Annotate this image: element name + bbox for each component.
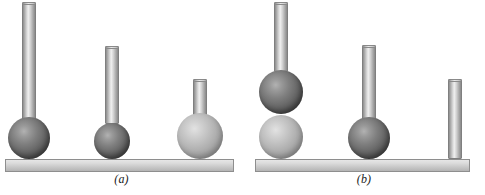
- rod-cap-icon: [448, 79, 462, 82]
- rod-cap-icon: [193, 79, 207, 82]
- assembly-b3: [243, 0, 485, 195]
- panel-b-label: (b): [243, 172, 485, 187]
- rod-a3: [193, 79, 207, 117]
- sphere-a3-light: [177, 113, 223, 159]
- panel-b: (b): [243, 0, 485, 195]
- rod-b3: [448, 79, 462, 159]
- assembly-a3: [0, 0, 243, 195]
- panel-a-label: (a): [0, 172, 243, 187]
- panel-a: (a): [0, 0, 243, 195]
- figure-container: (a) (b): [0, 0, 485, 195]
